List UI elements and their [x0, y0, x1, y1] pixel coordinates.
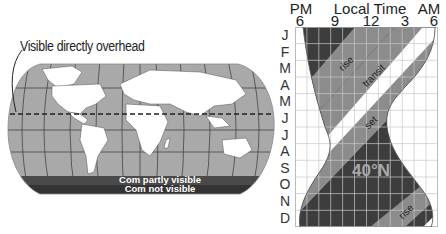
month-label: D [278, 210, 292, 227]
month-label: S [278, 160, 292, 177]
hour-label: 3 [395, 14, 415, 28]
month-label: J [278, 110, 292, 127]
not-visible-label: Com not visible [100, 184, 220, 193]
month-label: M [278, 93, 292, 110]
month-label: A [278, 77, 292, 94]
hour-label: 9 [325, 14, 345, 28]
latitude-label: 40°N [352, 161, 390, 181]
hour-label: 6 [290, 14, 310, 28]
visible-overhead-label: Visible directly overhead [20, 38, 145, 54]
world-map [0, 0, 280, 234]
month-label: F [278, 44, 292, 61]
month-label: M [278, 60, 292, 77]
month-label: O [278, 176, 292, 193]
month-label: J [278, 127, 292, 144]
month-label: A [278, 143, 292, 160]
month-label: J [278, 27, 292, 44]
month-label: N [278, 193, 292, 210]
month-axis: J F M A M J J A S O N D [278, 27, 292, 226]
hour-label: 12 [359, 14, 383, 28]
hour-label: 6 [424, 14, 444, 28]
